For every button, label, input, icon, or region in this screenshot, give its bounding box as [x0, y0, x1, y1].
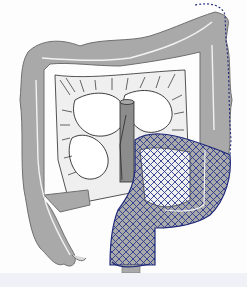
mesenteric-vessel: [120, 100, 134, 183]
bottom-band: [0, 273, 247, 287]
colon-illustration: [0, 0, 247, 287]
colon-diagram-svg: [0, 0, 247, 287]
